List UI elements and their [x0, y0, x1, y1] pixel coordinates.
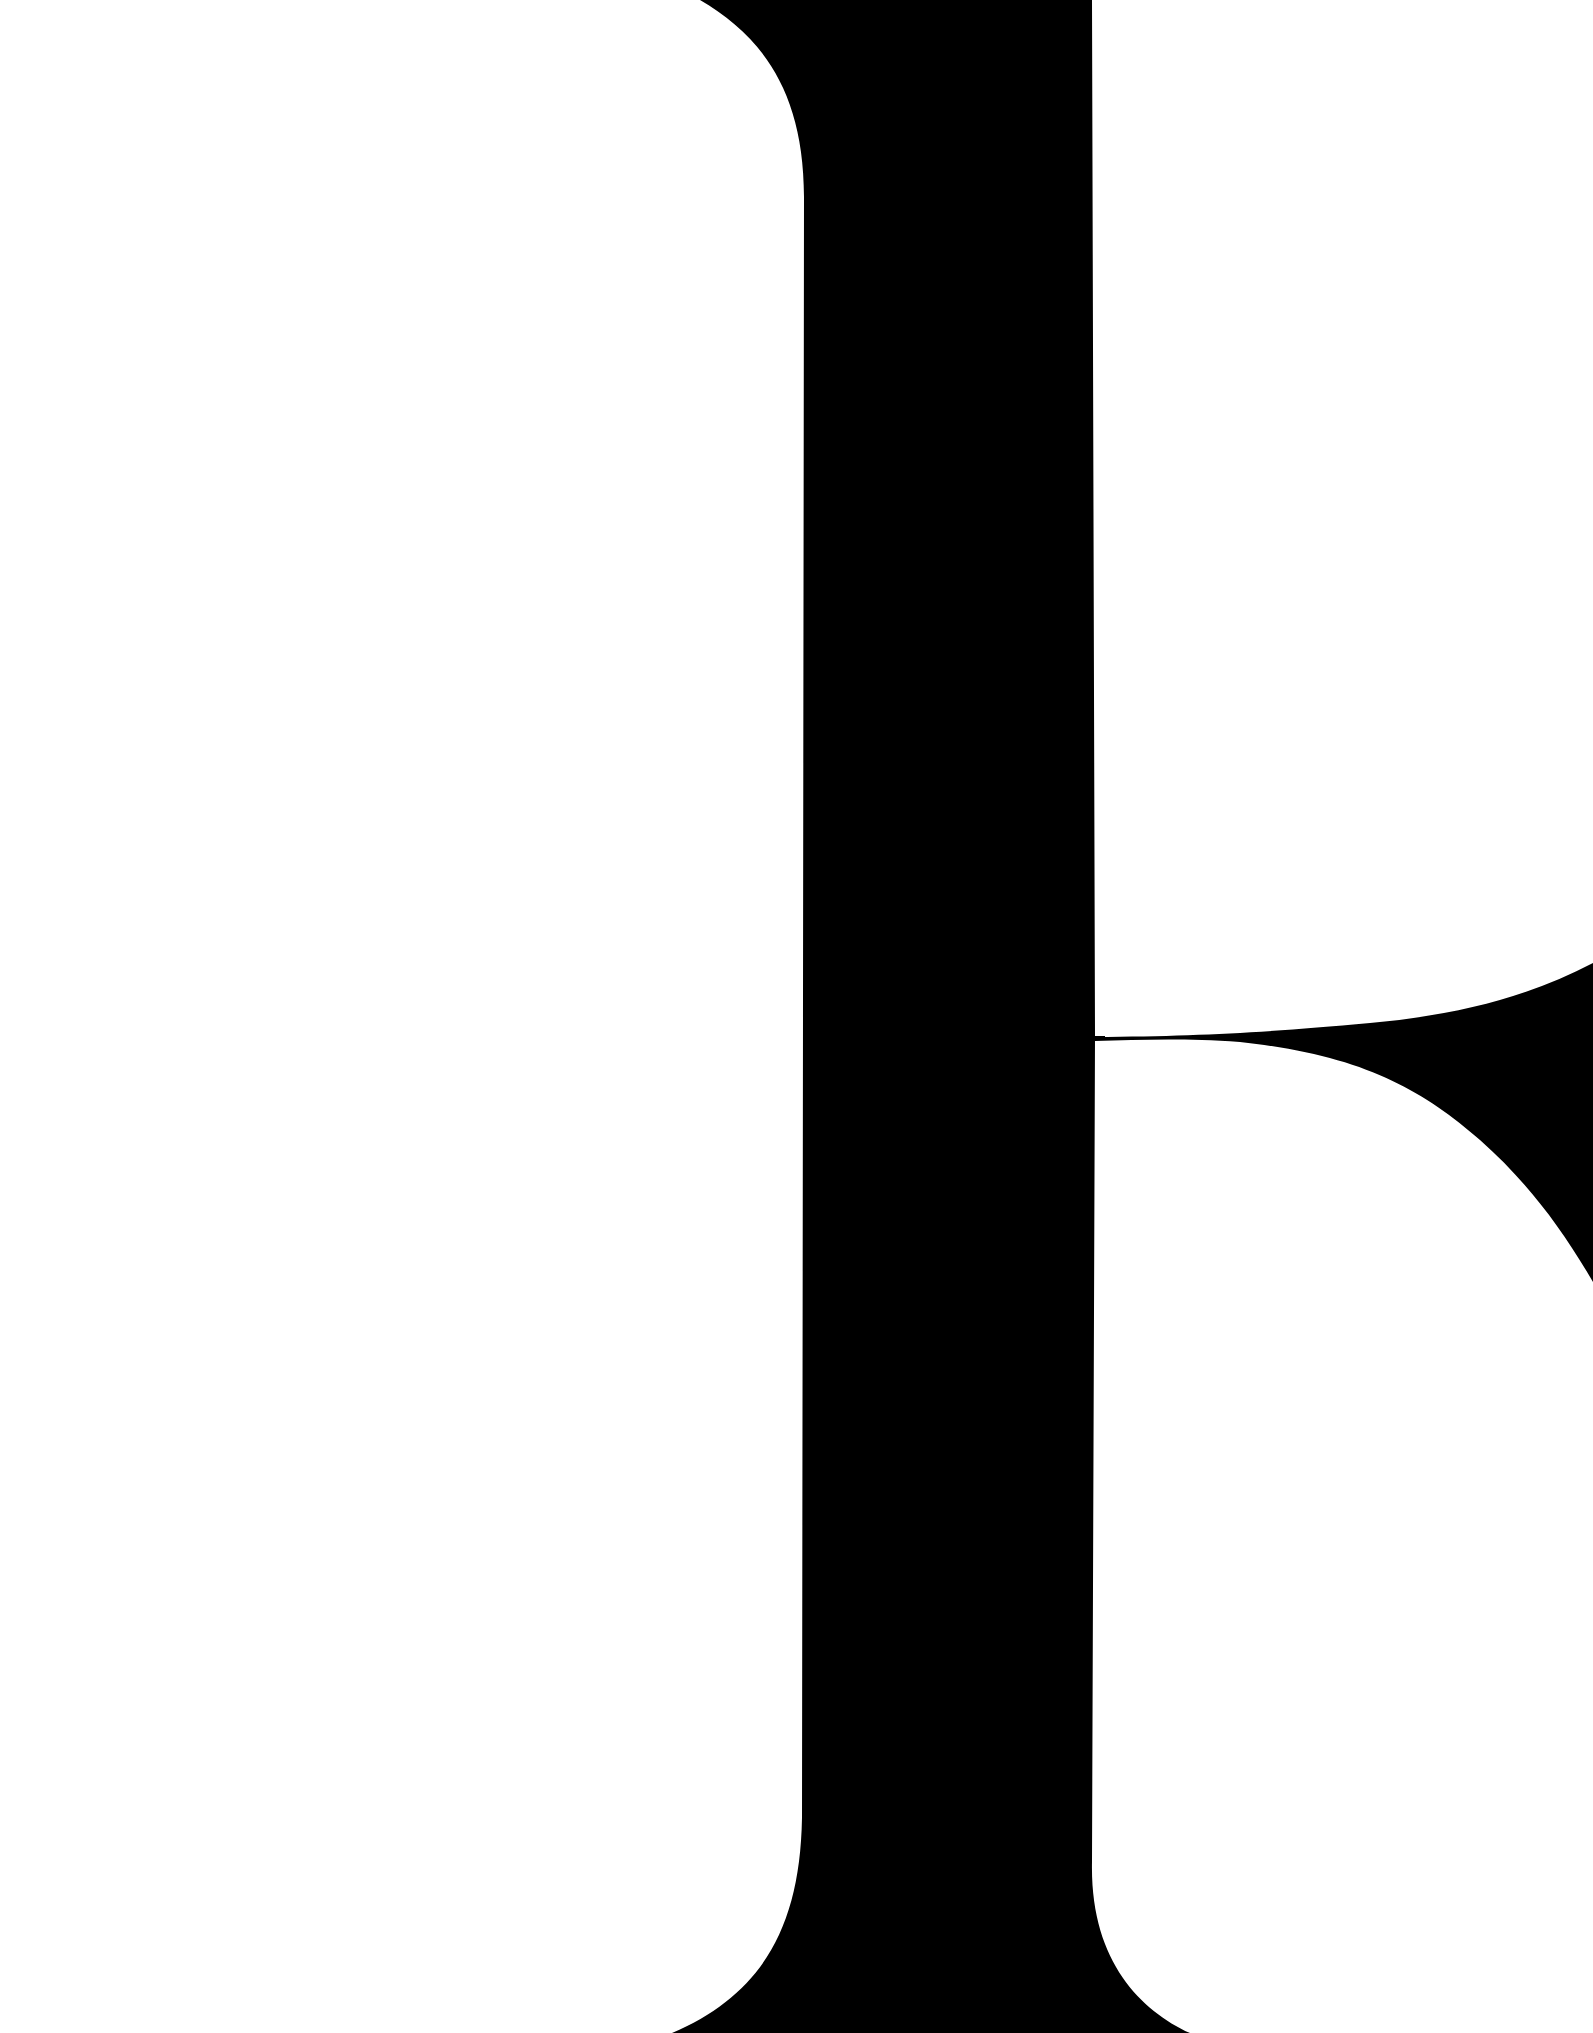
hairline-stroke	[1095, 1036, 1105, 1040]
glyph-bowl-join	[1095, 963, 1593, 1282]
letterform-glyph	[0, 0, 1593, 2033]
glyph-stem	[672, 0, 1190, 2033]
